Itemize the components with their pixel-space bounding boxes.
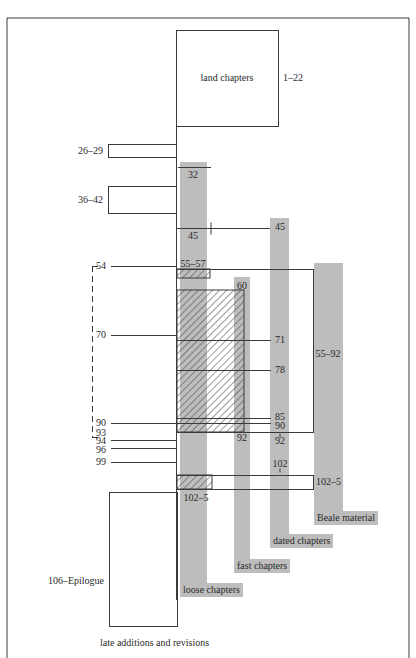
chapter-number-label: 71 (275, 334, 285, 346)
late-additions-caption: late additions and revisions (100, 637, 209, 649)
diagram-canvas (0, 0, 416, 658)
chapter-number-label: 60 (237, 280, 247, 292)
chapter-number-label: 32 (188, 169, 198, 181)
chapter-number-label: 102–5 (316, 476, 341, 488)
land-chapters-label: land chapters (200, 72, 253, 84)
dated-chapters-tag: dated chapters (270, 534, 333, 548)
chapter-number-label: 54 (96, 260, 106, 272)
chapter-number-label: 45 (188, 230, 198, 242)
chapters-36-42-box (109, 187, 177, 214)
chapter-number-label: 55–57 (181, 258, 206, 270)
chapter-number-label: 92 (275, 435, 285, 447)
chapter-number-label: 78 (275, 364, 285, 376)
chapter-number-label: 96 (96, 444, 106, 456)
hatch-102-5 (177, 475, 212, 489)
chapter-composition-diagram: land chapters1–2226–2936–42106–Epilogue3… (0, 0, 416, 658)
fast-chapters-tag: fast chapters (234, 559, 290, 573)
chapter-number-label: 55–92 (316, 348, 341, 360)
hatch-55-57 (177, 269, 210, 278)
land-chapters-range-label: 1–22 (283, 72, 303, 84)
chapters-36-42-range-label: 36–42 (78, 194, 103, 206)
chapter-number-label: 90 (275, 420, 285, 432)
chapters-26-29-range-label: 26–29 (78, 145, 103, 157)
loose-chapters-tag: loose chapters (180, 583, 243, 597)
hatch-60-92 (177, 290, 244, 432)
chapter-number-label: 102–5 (184, 492, 209, 504)
late-additions-box (110, 493, 178, 627)
dated-chapters-bar (270, 218, 289, 536)
chapter-number-label: 45 (275, 221, 285, 233)
chapter-number-label: 92 (237, 432, 247, 444)
chapter-number-label: 99 (96, 456, 106, 468)
chapters-26-29-box (109, 145, 177, 158)
chapter-number-label: 70 (96, 329, 106, 341)
late-additions-range-label: 106–Epilogue (48, 575, 104, 587)
chapter-number-label: 102 (273, 458, 288, 470)
beale-material-tag: Beale material (314, 511, 378, 525)
